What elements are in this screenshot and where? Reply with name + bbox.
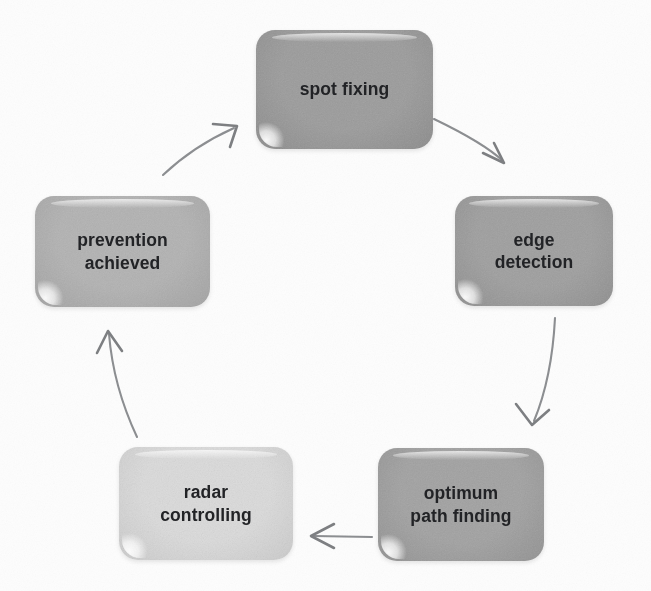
node-label: optimum path finding — [410, 482, 511, 526]
node-spot-fixing[interactable]: spot fixing — [256, 30, 433, 149]
arrow-shaft — [314, 536, 372, 537]
node-prevention-achieved[interactable]: prevention achieved — [35, 196, 210, 307]
node-corner-highlight — [259, 121, 285, 147]
node-label: prevention achieved — [77, 229, 167, 273]
node-top-sheen — [469, 199, 599, 208]
arrowhead-icon — [516, 404, 549, 425]
node-edge-detection[interactable]: edge detection — [455, 196, 613, 306]
arrow-optimum-path-finding-to-radar-controlling — [311, 524, 372, 548]
node-optimum-path-finding[interactable]: optimum path finding — [378, 448, 544, 561]
arrow-prevention-achieved-to-spot-fixing — [163, 124, 237, 175]
node-corner-highlight — [381, 533, 407, 559]
arrow-shaft — [109, 334, 137, 437]
node-top-sheen — [272, 33, 417, 42]
arrow-shaft — [534, 318, 555, 421]
diagram-canvas: spot fixing edge detection optimum path … — [0, 0, 651, 591]
arrow-shaft — [434, 119, 503, 161]
node-label: radar controlling — [160, 481, 252, 525]
node-top-sheen — [393, 451, 529, 460]
node-corner-highlight — [122, 532, 148, 558]
arrow-edge-detection-to-optimum-path-finding — [516, 318, 555, 425]
node-label: edge detection — [495, 229, 574, 273]
node-radar-controlling[interactable]: radar controlling — [119, 447, 293, 560]
node-top-sheen — [51, 199, 195, 208]
arrow-radar-controlling-to-prevention-achieved — [97, 331, 137, 437]
node-corner-highlight — [458, 278, 484, 304]
node-corner-highlight — [38, 279, 64, 305]
node-label: spot fixing — [300, 78, 390, 100]
node-top-sheen — [135, 450, 278, 459]
arrow-spot-fixing-to-edge-detection — [434, 119, 504, 163]
arrow-shaft — [163, 128, 234, 175]
